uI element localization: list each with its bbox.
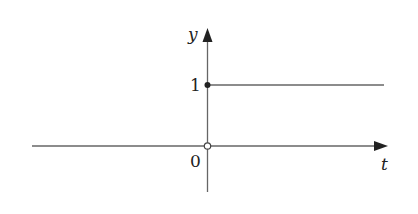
y-tick-1-label: 1 [190,75,201,95]
filled-point-marker [205,82,211,88]
y-axis-arrow-icon [203,28,213,42]
t-axis-label: t [381,154,388,174]
step-function-chart: y 1 0 t [0,0,418,214]
origin-label: 0 [190,151,201,171]
y-axis-label: y [187,24,198,44]
t-axis-arrow-icon [374,141,388,151]
open-point-marker [204,143,210,149]
